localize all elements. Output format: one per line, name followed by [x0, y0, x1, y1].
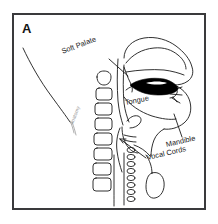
leader-line-soft-palate [109, 59, 128, 76]
anatomy-illustration [14, 15, 204, 208]
posterior-neck-outline [23, 48, 70, 122]
panel-frame: A [12, 13, 206, 210]
figure-root: A [0, 0, 218, 224]
nasal-cavity [126, 48, 186, 69]
vocal-cords-structure [124, 135, 136, 142]
tracheal-rings [127, 147, 135, 201]
thyroid-cartilage [117, 128, 122, 172]
hard-palate [126, 70, 184, 75]
skull-outline [124, 37, 193, 85]
cervical-vertebrae [93, 71, 112, 191]
oral-airway-fill [130, 78, 178, 95]
sternum-oval [146, 172, 164, 198]
